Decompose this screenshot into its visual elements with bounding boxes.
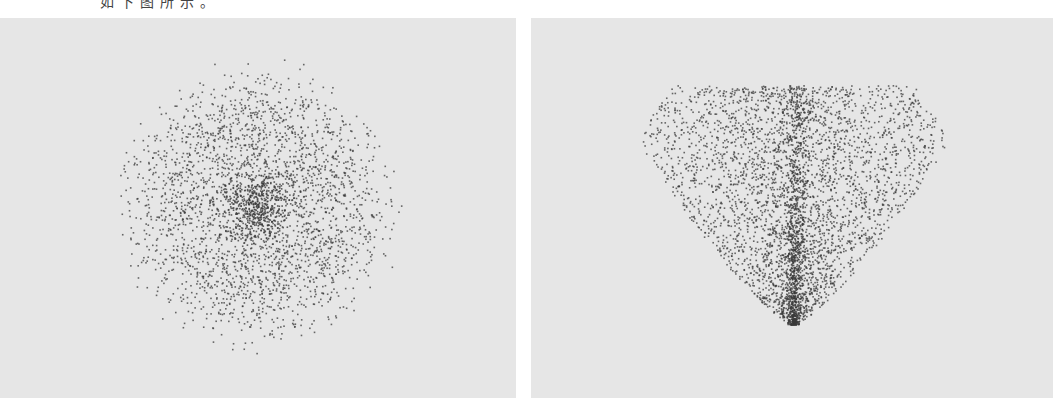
caption-text: 如下图所示。	[100, 0, 220, 11]
scatter-plot-radial	[0, 18, 516, 398]
scatter-plot-cone	[531, 18, 1053, 398]
scatter-panel-radial	[0, 18, 516, 398]
scatter-panel-cone	[531, 18, 1053, 398]
